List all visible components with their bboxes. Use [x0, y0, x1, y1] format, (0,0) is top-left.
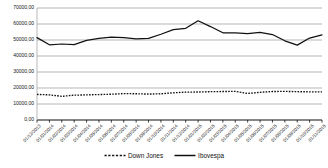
line-chart: 0,0010000,0020000,0030000,0040000,005000…	[0, 0, 328, 168]
legend-label-ibovespa: Ibovespa	[198, 152, 224, 159]
y-axis-tick-label: 10000,00	[13, 101, 34, 106]
y-axis-tick-label: 50000,00	[13, 37, 34, 42]
legend-swatch-dashed-icon	[104, 152, 126, 159]
y-axis-labels: 0,0010000,0020000,0030000,0040000,005000…	[0, 0, 36, 130]
y-axis-tick-label: 60000,00	[13, 21, 34, 26]
series-line-down-jones	[37, 91, 322, 96]
y-axis-tick-label: 40000,00	[13, 53, 34, 58]
y-axis-tick-label: 20000,00	[13, 85, 34, 90]
gridlines	[37, 8, 322, 104]
y-axis-tick-label: 70000,00	[13, 5, 34, 10]
legend-item-down-jones: Down Jones	[104, 152, 163, 159]
series-line-ibovespa	[37, 21, 322, 45]
y-axis-tick-label: 30000,00	[13, 69, 34, 74]
y-axis-tick-label: 0,00	[24, 117, 34, 122]
chart-plot-area	[0, 0, 328, 168]
legend-item-ibovespa: Ibovespa	[174, 152, 224, 159]
legend-swatch-solid-icon	[174, 152, 196, 159]
legend-label-down-jones: Down Jones	[128, 152, 163, 159]
chart-legend: Down Jones Ibovespa	[0, 152, 328, 159]
